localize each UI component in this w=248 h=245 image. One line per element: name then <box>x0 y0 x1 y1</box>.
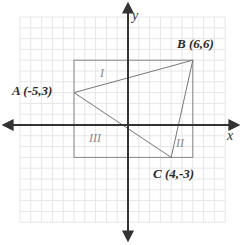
point-a-label: A (-5,3) <box>11 83 52 98</box>
region-ii-label: II <box>175 136 185 150</box>
point-b-label: B (6,6) <box>176 36 214 51</box>
x-axis-label: x <box>226 128 234 143</box>
y-axis-label: y <box>130 8 139 23</box>
point-c-label: C (4,-3) <box>153 166 194 181</box>
region-i-label: I <box>99 66 105 80</box>
coordinate-plane-diagram: x y A (-5,3) B (6,6) C (4,-3) I II III <box>0 0 248 245</box>
region-iii-label: III <box>88 131 102 145</box>
